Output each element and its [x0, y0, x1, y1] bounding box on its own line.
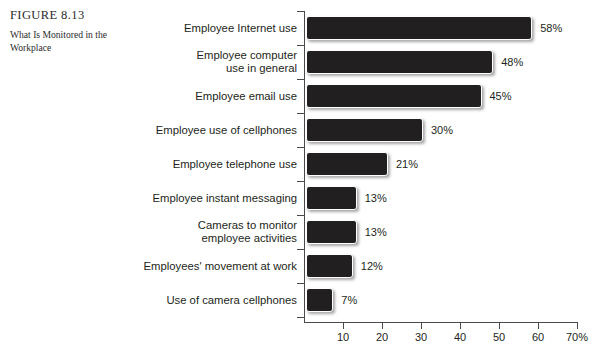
bar-row: Employee email use45%: [0, 79, 595, 113]
category-label: Employee computeruse in general: [197, 45, 297, 79]
x-axis-line: [304, 322, 578, 323]
category-label-line: Employee use of cellphones: [156, 124, 297, 137]
bar-value-label: 45%: [490, 79, 512, 113]
bar-row: Employee computeruse in general48%: [0, 45, 595, 79]
bar-row: Employee Internet use58%: [0, 11, 595, 45]
category-label: Employees' movement at work: [144, 249, 297, 283]
bar: [306, 50, 493, 74]
bar-value-label: 13%: [365, 181, 387, 215]
category-label: Employee use of cellphones: [156, 113, 297, 147]
bar-value-label: 21%: [396, 147, 418, 181]
x-axis-tick: [343, 323, 344, 329]
x-axis-tick: [382, 323, 383, 329]
category-label-line: Employees' movement at work: [144, 260, 297, 273]
x-axis-tick: [577, 323, 578, 329]
category-label-line: Employee email use: [195, 90, 297, 103]
category-label-line: employee activities: [202, 232, 297, 245]
y-axis-tick: [297, 113, 304, 114]
category-label: Employee Internet use: [184, 11, 297, 45]
y-axis-tick: [297, 181, 304, 182]
x-axis-tick: [499, 323, 500, 329]
category-label: Employee email use: [195, 79, 297, 113]
x-axis-tick-label: 20: [376, 331, 388, 343]
x-axis-tick-label: 50: [493, 331, 505, 343]
category-label: Employee instant messaging: [153, 181, 297, 215]
x-axis-tick: [460, 323, 461, 329]
category-label: Use of camera cellphones: [166, 283, 297, 317]
bar: [306, 186, 357, 210]
category-label-line: Employee telephone use: [173, 158, 297, 171]
x-axis-tick-label: 40: [454, 331, 466, 343]
bar-row: Employee telephone use21%: [0, 147, 595, 181]
bar-row: Employees' movement at work12%: [0, 249, 595, 283]
category-label: Cameras to monitoremployee activities: [198, 215, 297, 249]
bar: [306, 84, 482, 108]
bar-row: Employee instant messaging13%: [0, 181, 595, 215]
bar: [306, 152, 388, 176]
category-label: Employee telephone use: [173, 147, 297, 181]
category-label-line: Employee computer: [197, 49, 297, 62]
category-label-line: Use of camera cellphones: [166, 294, 297, 307]
x-axis-tick: [538, 323, 539, 329]
bar: [306, 254, 353, 278]
y-axis-tick: [297, 147, 304, 148]
y-axis-tick: [297, 283, 304, 284]
y-axis-tick: [297, 317, 304, 318]
x-axis-tick-label: 30: [415, 331, 427, 343]
bar-row: Cameras to monitoremployee activities13%: [0, 215, 595, 249]
bar: [306, 16, 532, 40]
bar-row: Employee use of cellphones30%: [0, 113, 595, 147]
y-axis-tick: [297, 45, 304, 46]
category-label-line: use in general: [226, 62, 297, 75]
category-label-line: Employee instant messaging: [153, 192, 297, 205]
y-axis-tick: [297, 249, 304, 250]
bar-value-label: 7%: [341, 283, 357, 317]
bar-chart: Employee Internet use58%Employee compute…: [0, 0, 595, 353]
y-axis-tick: [297, 215, 304, 216]
bar: [306, 118, 423, 142]
y-axis-tick: [297, 79, 304, 80]
bar-row: Use of camera cellphones7%: [0, 283, 595, 317]
x-axis-tick: [421, 323, 422, 329]
category-label-line: Employee Internet use: [184, 22, 297, 35]
bar-value-label: 12%: [361, 249, 383, 283]
bar-value-label: 58%: [540, 11, 562, 45]
y-axis-tick: [297, 11, 304, 12]
x-axis-tick-label: 10: [337, 331, 349, 343]
bar: [306, 220, 357, 244]
bar-value-label: 48%: [501, 45, 523, 79]
x-axis-tick-label: 70%: [566, 331, 588, 343]
x-axis-tick-label: 60: [532, 331, 544, 343]
bar: [306, 288, 333, 312]
bar-value-label: 13%: [365, 215, 387, 249]
category-label-line: Cameras to monitor: [198, 219, 297, 232]
bar-value-label: 30%: [431, 113, 453, 147]
